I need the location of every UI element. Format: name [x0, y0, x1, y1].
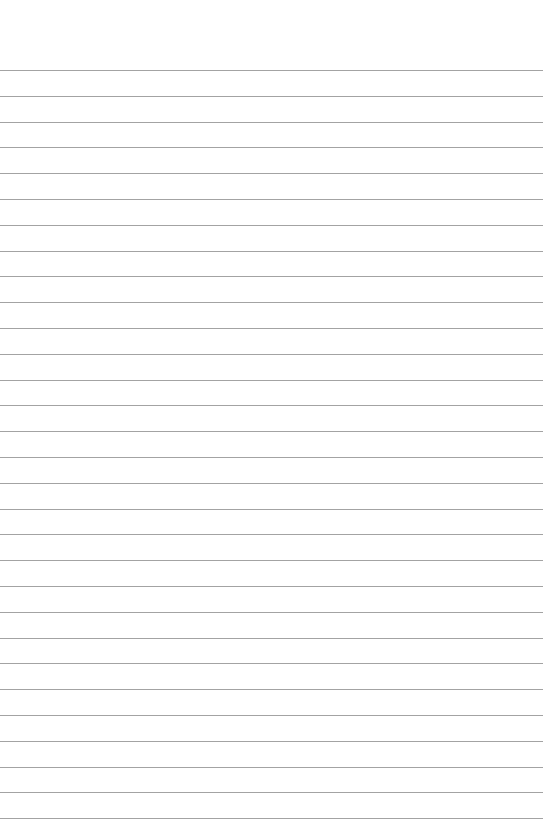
ruled-line [0, 354, 543, 355]
ruled-line [0, 380, 543, 381]
ruled-line [0, 173, 543, 174]
ruled-line [0, 147, 543, 148]
ruled-line [0, 663, 543, 664]
ruled-line [0, 818, 543, 819]
ruled-line [0, 457, 543, 458]
ruled-line [0, 741, 543, 742]
ruled-line [0, 792, 543, 793]
ruled-line [0, 199, 543, 200]
ruled-line [0, 302, 543, 303]
ruled-line [0, 767, 543, 768]
ruled-line [0, 251, 543, 252]
ruled-line [0, 405, 543, 406]
ruled-line [0, 586, 543, 587]
ruled-line [0, 431, 543, 432]
ruled-line [0, 612, 543, 613]
ruled-line [0, 328, 543, 329]
ruled-line [0, 534, 543, 535]
ruled-line [0, 225, 543, 226]
ruled-line [0, 70, 543, 71]
ruled-line [0, 276, 543, 277]
ruled-line [0, 715, 543, 716]
ruled-paper-page [0, 0, 546, 833]
ruled-line [0, 638, 543, 639]
ruled-line [0, 122, 543, 123]
ruled-line [0, 509, 543, 510]
ruled-line [0, 96, 543, 97]
ruled-line [0, 560, 543, 561]
ruled-line [0, 689, 543, 690]
ruled-line [0, 483, 543, 484]
